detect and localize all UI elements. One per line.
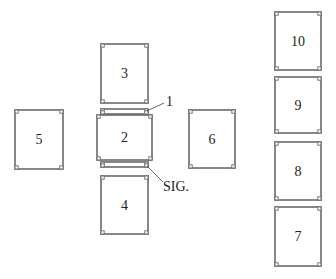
corner-mark-icon [275,207,278,210]
corner-mark-icon [318,263,321,266]
card-9: 9 [275,77,321,133]
corner-mark-icon [145,100,148,103]
corner-mark-icon [145,111,148,114]
corner-mark-icon [232,165,235,168]
corner-mark-icon [318,77,321,80]
corner-mark-icon [275,142,278,145]
corner-mark-icon [189,110,192,113]
card-number: 3 [121,66,128,81]
strip-sig [101,162,148,167]
corner-mark-icon [275,263,278,266]
corner-mark-icon [275,197,278,200]
corner-mark-icon [145,231,148,234]
card-7: 7 [275,207,321,266]
corner-mark-icon [15,166,18,169]
corner-mark-icon [97,157,100,160]
corner-mark-icon [97,115,100,118]
leader-line [147,103,164,111]
corner-mark-icon [189,165,192,168]
corner-mark-icon [101,231,104,234]
corner-mark-icon [318,12,321,15]
corner-mark-icon [149,115,152,118]
corner-mark-icon [145,176,148,179]
card-number: 4 [121,198,128,213]
corner-mark-icon [275,130,278,133]
corner-mark-icon [60,166,63,169]
corner-mark-icon [101,176,104,179]
corner-mark-icon [318,130,321,133]
card-8: 8 [275,142,321,200]
corner-mark-icon [275,77,278,80]
strip-1 [101,109,148,114]
corner-mark-icon [60,110,63,113]
card-4: 4 [101,176,148,234]
corner-mark-icon [232,110,235,113]
corner-mark-icon [275,12,278,15]
card-number: 5 [36,132,43,147]
card-2: 2 [97,115,152,160]
corner-mark-icon [318,142,321,145]
corner-mark-icon [15,110,18,113]
corner-mark-icon [318,197,321,200]
corner-mark-icon [101,44,104,47]
card-number: 2 [121,130,128,145]
corner-mark-icon [101,111,104,114]
card-number: 8 [295,164,302,179]
corner-mark-icon [101,164,104,167]
card-5: 5 [15,110,63,169]
card-3: 3 [101,44,148,103]
callouts: 1SIG. [147,94,189,194]
corner-mark-icon [275,67,278,70]
card-10: 10 [275,12,321,70]
callout-label: SIG. [163,179,189,194]
card-positions: 3245610987 [15,12,321,266]
callout-card-1: 1 [147,94,173,111]
card-number: 6 [209,132,216,147]
corner-mark-icon [145,44,148,47]
corner-mark-icon [318,207,321,210]
corner-mark-icon [149,157,152,160]
corner-mark-icon [101,100,104,103]
callout-label: 1 [166,94,173,109]
card-number: 10 [291,34,305,49]
card-6: 6 [189,110,235,168]
leader-line [147,166,163,182]
tarot-spread-diagram: 3245610987 1SIG. [0,0,336,279]
card-number: 9 [295,98,302,113]
card-number: 7 [295,229,302,244]
corner-mark-icon [318,67,321,70]
callout-significator: SIG. [147,166,189,194]
